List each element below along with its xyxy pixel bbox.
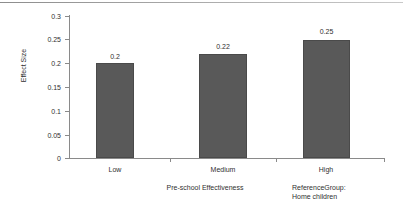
reference-group-annotation: ReferenceGroup: Home children (292, 184, 346, 201)
bar-low[interactable] (96, 63, 134, 158)
y-tick-label: 0.2 (51, 60, 61, 67)
y-tick-label: 0 (57, 155, 61, 162)
x-tick-mark (170, 158, 171, 162)
x-tick-mark (276, 158, 277, 162)
bar-value-low: 0.2 (96, 53, 134, 60)
reference-group-line-2: Home children (292, 193, 346, 202)
x-category-label-low: Low (95, 166, 135, 174)
bar-value-medium: 0.22 (199, 43, 247, 50)
bar-medium[interactable] (199, 54, 247, 158)
y-tick-label: 0.15 (47, 84, 61, 91)
reference-group-line-1: ReferenceGroup: (292, 184, 346, 193)
x-axis-title: Pre-school Effectiveness (143, 184, 267, 192)
y-tick-label: 0.1 (51, 108, 61, 115)
bar-value-high: 0.25 (303, 28, 350, 35)
x-tick-mark (384, 158, 385, 162)
y-tick-label: 0.05 (47, 132, 61, 139)
x-category-label-high: High (304, 166, 348, 174)
x-category-label-medium: Medium (196, 166, 250, 174)
plot-area (69, 16, 385, 158)
y-axis-title: Effect Size (20, 36, 27, 96)
x-axis-line (69, 158, 385, 159)
page-rule-divider (0, 2, 403, 3)
y-tick-label: 0.25 (47, 36, 61, 43)
bar-chart: Effect Size 0.3 0.25 0.2 0.15 0.1 0.05 0… (0, 0, 403, 207)
y-tick-label: 0.3 (51, 13, 61, 20)
bar-high[interactable] (303, 40, 350, 158)
